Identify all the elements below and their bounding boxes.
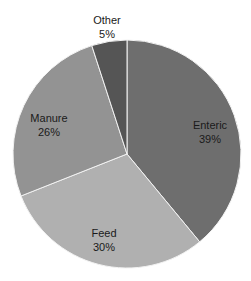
slice-label-manure: Manure 26% [30,111,67,139]
slice-percent: 5% [93,27,121,41]
slice-percent: 30% [91,240,116,254]
slice-name: Feed [91,226,116,240]
slice-percent: 26% [30,125,67,139]
slice-name: Other [93,13,121,27]
slice-name: Enteric [193,118,227,132]
slice-label-other: Other 5% [93,13,121,41]
slice-percent: 39% [193,132,227,146]
slice-name: Manure [30,111,67,125]
slice-label-feed: Feed 30% [91,226,116,254]
slice-label-enteric: Enteric 39% [193,118,227,146]
